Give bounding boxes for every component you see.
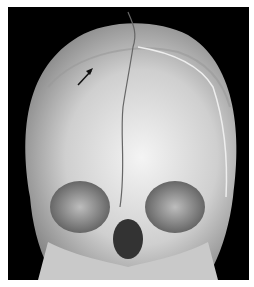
ct-image-panel [8, 7, 249, 280]
skull-rendering [8, 7, 249, 280]
